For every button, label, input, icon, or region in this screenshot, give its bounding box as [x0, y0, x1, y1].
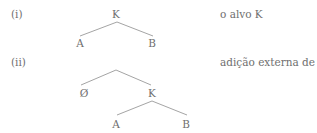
tree-1-edge-right — [117, 22, 153, 36]
tree-edges — [0, 0, 317, 133]
tree-2-edge-right — [116, 70, 151, 85]
tree-2-subtree-edge-left — [117, 101, 152, 115]
tree-2-subtree-edge-right — [152, 101, 187, 115]
tree-1-edge-left — [80, 22, 117, 36]
tree-2-edge-left — [81, 70, 116, 85]
